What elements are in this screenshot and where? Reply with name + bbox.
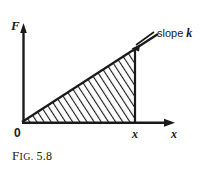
caption-number: 5.8	[36, 149, 52, 163]
figure-container: F 0 x x slope k FIG.5.8	[0, 0, 221, 171]
vertical-axis-label: F	[11, 19, 20, 32]
vertical-axis	[20, 23, 27, 122]
caption-prefix-rest: IG.	[20, 151, 34, 162]
horizontal-axis-label: x	[171, 128, 177, 140]
horizontal-axis-arrow-icon	[164, 119, 175, 127]
vertical-axis-arrow-icon	[20, 23, 27, 33]
caption-prefix-first: F	[12, 148, 20, 163]
figure-caption: FIG.5.8	[12, 148, 52, 164]
x-tick-label: x	[132, 128, 138, 140]
slope-annotation-text: slope	[157, 27, 183, 39]
origin-label: 0	[14, 127, 21, 139]
slope-leader-line	[132, 32, 155, 52]
slope-annotation: slope k	[157, 27, 192, 39]
slope-annotation-symbol: k	[186, 26, 192, 40]
